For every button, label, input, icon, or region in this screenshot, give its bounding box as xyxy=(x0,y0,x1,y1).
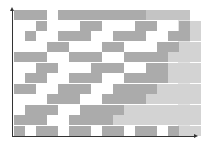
block-cell xyxy=(146,10,157,20)
block-cell xyxy=(25,105,36,115)
block-cell xyxy=(146,63,157,73)
block-cell xyxy=(124,105,135,115)
block-cell xyxy=(179,94,190,104)
block-cell xyxy=(36,105,47,115)
block-cell xyxy=(168,84,179,94)
block-cell xyxy=(146,73,157,83)
block-cell xyxy=(179,115,190,125)
block-cell xyxy=(124,84,135,94)
block-cell xyxy=(179,52,190,62)
block-cell xyxy=(179,42,190,52)
block-cell xyxy=(113,42,124,52)
block-cell xyxy=(157,115,168,125)
block-cell xyxy=(47,94,58,104)
block-cell xyxy=(113,31,124,41)
block-cell xyxy=(190,94,201,104)
block-cell xyxy=(113,105,124,115)
block-cell xyxy=(47,42,58,52)
block-cell xyxy=(25,73,36,83)
block-cell xyxy=(190,31,201,41)
block-cell xyxy=(190,84,201,94)
block-cell xyxy=(113,94,124,104)
block-cell xyxy=(157,63,168,73)
block-cell xyxy=(80,21,91,31)
block-cell xyxy=(14,84,25,94)
block-cell xyxy=(190,21,201,31)
block-cell xyxy=(124,31,135,41)
block-cell xyxy=(102,126,113,136)
block-cell xyxy=(69,31,80,41)
block-cell xyxy=(80,105,91,115)
block-cell xyxy=(91,10,102,20)
block-cell xyxy=(190,42,201,52)
block-cell xyxy=(80,10,91,20)
block-cell xyxy=(36,73,47,83)
block-cell xyxy=(124,115,135,125)
block-cell xyxy=(80,115,91,125)
block-cell xyxy=(14,10,25,20)
block-cell xyxy=(168,31,179,41)
block-cell xyxy=(36,52,47,62)
block-cell xyxy=(69,94,80,104)
block-cell xyxy=(146,115,157,125)
block-cell xyxy=(91,52,102,62)
block-cell xyxy=(91,115,102,125)
block-cell xyxy=(36,21,47,31)
block-cell xyxy=(135,126,146,136)
block-cell xyxy=(102,105,113,115)
block-cell xyxy=(102,42,113,52)
block-cell xyxy=(146,21,157,31)
block-cell xyxy=(135,105,146,115)
block-cell xyxy=(113,126,124,136)
block-cell xyxy=(25,10,36,20)
block-cell xyxy=(69,84,80,94)
block-cell xyxy=(36,126,47,136)
block-cell xyxy=(36,63,47,73)
x-axis-arrow-icon xyxy=(194,134,198,138)
block-cell xyxy=(135,94,146,104)
block-cell xyxy=(58,84,69,94)
block-cell xyxy=(91,105,102,115)
block-cell xyxy=(113,63,124,73)
block-cell xyxy=(14,115,25,125)
block-cell xyxy=(80,73,91,83)
block-cell xyxy=(179,10,190,20)
block-cell xyxy=(102,10,113,20)
block-cell xyxy=(69,73,80,83)
block-cell xyxy=(14,126,25,136)
block-cell xyxy=(190,73,201,83)
block-cell xyxy=(135,84,146,94)
block-cell xyxy=(168,105,179,115)
block-cell xyxy=(190,52,201,62)
block-cell xyxy=(168,94,179,104)
block-cell xyxy=(179,84,190,94)
block-cell xyxy=(113,84,124,94)
block-cell xyxy=(135,115,146,125)
y-axis xyxy=(12,10,13,137)
block-cell xyxy=(58,10,69,20)
block-cell xyxy=(146,52,157,62)
block-cell xyxy=(91,21,102,31)
block-cell xyxy=(25,115,36,125)
block-cell xyxy=(69,115,80,125)
block-cell xyxy=(179,21,190,31)
block-cell xyxy=(36,115,47,125)
block-cell xyxy=(146,84,157,94)
block-cell xyxy=(25,84,36,94)
block-cell xyxy=(179,63,190,73)
block-cell xyxy=(25,31,36,41)
block-cell xyxy=(168,10,179,20)
block-cell xyxy=(47,105,58,115)
block-cell xyxy=(80,52,91,62)
block-cell xyxy=(146,126,157,136)
block-cell xyxy=(58,94,69,104)
block-cell xyxy=(146,105,157,115)
block-cell xyxy=(102,94,113,104)
block-cell xyxy=(91,63,102,73)
block-cell xyxy=(58,31,69,41)
block-cell xyxy=(190,105,201,115)
block-cell xyxy=(135,73,146,83)
x-axis xyxy=(12,136,195,137)
block-cell xyxy=(190,115,201,125)
block-cell xyxy=(113,115,124,125)
